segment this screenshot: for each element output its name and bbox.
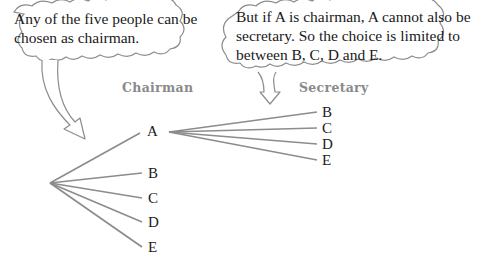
left-bubble-line-2: chosen as chairman. xyxy=(14,28,197,47)
secretary-node-c: C xyxy=(322,121,332,136)
secretary-branches xyxy=(169,112,317,160)
secretary-node-b: B xyxy=(322,105,332,120)
right-bubble-text: But if A is chairman, A cannot also be s… xyxy=(236,7,471,64)
right-bubble-line-3: between B, C, D and E. xyxy=(236,45,471,64)
chairman-node-a: A xyxy=(147,124,158,139)
chairman-header: Chairman xyxy=(122,80,193,95)
chairman-node-c: C xyxy=(148,191,158,206)
left-bubble-text: Any of the five people can be chosen as … xyxy=(14,9,197,47)
right-bubble-line-2: secretary. So the choice is limited to xyxy=(236,26,471,45)
chairman-node-e: E xyxy=(148,240,157,255)
arrow-to-chairman-icon xyxy=(42,60,85,139)
chairman-node-d: D xyxy=(148,215,159,230)
chairman-branches xyxy=(50,133,142,247)
secretary-node-e: E xyxy=(322,153,331,168)
right-bubble-line-1: But if A is chairman, A cannot also be xyxy=(236,7,471,26)
arrow-to-secretary-icon xyxy=(258,72,280,104)
secretary-node-d: D xyxy=(322,137,333,152)
secretary-header: Secretary xyxy=(299,80,369,95)
left-bubble-line-1: Any of the five people can be xyxy=(14,9,197,28)
chairman-node-b: B xyxy=(148,166,158,181)
